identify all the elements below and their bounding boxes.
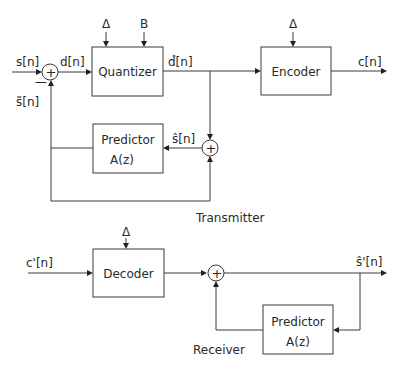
receiver-output-label: ŝ'[n] [356,255,383,269]
quantizer-bits-label: B [140,17,148,31]
arrowhead-icon [87,270,93,276]
quantizer-label: Quantizer [98,65,157,79]
arrowhead-icon [381,270,387,276]
arrowhead-icon [201,270,207,276]
arrowhead-icon [163,145,169,151]
receiver-label: Receiver [193,343,245,357]
plus-icon: + [206,141,217,156]
decoder-label: Decoder [103,267,154,281]
plus-icon: + [212,266,223,281]
transmitter-label: Transmitter [195,211,265,225]
diagram-canvas: s[n] + — d[n] Quantizer Δ B d̂[n] Encode… [0,0,411,374]
minus-sign: — [35,75,47,89]
dpcm-diagram: s[n] + — d[n] Quantizer Δ B d̂[n] Encode… [0,0,411,374]
arrowhead-icon [86,69,92,75]
input-signal-label: s[n] [16,55,39,69]
arrowhead-icon [255,68,261,74]
difference-signal-label: d[n] [60,55,85,69]
receiver-predictor-label: Predictor [271,315,325,329]
encoder-label: Encoder [271,65,320,79]
arrowhead-icon [48,80,54,86]
receiver-input-label: c'[n] [26,256,53,270]
receiver-section: Δ c'[n] Decoder + ŝ'[n] Predictor A(z) [26,225,387,357]
predictor-transfer-function: A(z) [110,153,134,167]
prediction-signal-label: s̃[n] [16,95,39,109]
predictor-label: Predictor [101,133,155,147]
arrowhead-icon [207,134,213,140]
arrowhead-icon [381,68,387,74]
arrowhead-icon [103,41,109,47]
arrowhead-icon [290,41,296,47]
reconstructed-signal-label: ŝ[n] [172,132,195,146]
quantizer-delta-label: Δ [102,17,111,31]
decoder-delta-label: Δ [122,225,131,239]
summing-junction-2: + [202,140,218,156]
encoder-delta-label: Δ [289,17,298,31]
receiver-predictor-transfer-function: A(z) [286,335,310,349]
arrowhead-icon [333,327,339,333]
arrowhead-icon [123,243,129,249]
quantized-signal-label: d̂[n] [168,55,193,69]
receiver-summing-junction: + [208,265,224,281]
arrowhead-icon [141,41,147,47]
arrowhead-icon [207,156,213,162]
output-signal-label: c[n] [358,55,382,69]
transmitter-section: s[n] + — d[n] Quantizer Δ B d̂[n] Encode… [12,17,387,225]
plus-icon: + [46,65,57,80]
arrowhead-icon [213,281,219,287]
